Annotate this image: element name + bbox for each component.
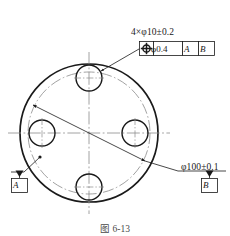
fcf-datum-secondary-label: B [200, 45, 206, 54]
datum-a-label: A [13, 181, 19, 190]
engineering-drawing: 4×φ10±0.2 φ0.4 A B φ100±0.1 A B 图 6-13 [0, 0, 230, 236]
diameter-dimension-label: φ100±0.1 [181, 163, 219, 173]
hole-callout-label: 4×φ10±0.2 [131, 28, 174, 38]
fcf-leader-line [101, 49, 139, 71]
figure-caption: 图 6-13 [0, 225, 230, 235]
fcf-tolerance-label: φ0.4 [151, 45, 167, 54]
datum-a-triangle-icon [16, 171, 24, 178]
fcf-datum-primary-label: A [184, 45, 190, 54]
drawing-canvas [0, 0, 230, 236]
datum-b-label: B [203, 181, 209, 190]
